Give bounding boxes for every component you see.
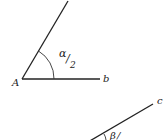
angle-beta-half: c β / <box>88 95 163 140</box>
angle-diagram: A b α / 2 c β / <box>0 0 167 140</box>
ray-c <box>88 104 153 140</box>
angle-arc <box>39 51 55 79</box>
angle-arc-beta <box>104 134 106 140</box>
ray-upper <box>22 1 68 79</box>
angle-label-beta-slash: / <box>116 130 122 140</box>
angle-alpha-half: A b α / 2 <box>11 1 109 88</box>
ray-label-c: c <box>157 95 163 106</box>
ray-label-b: b <box>103 73 109 84</box>
vertex-label-a: A <box>11 77 19 88</box>
angle-label-beta: β <box>109 130 116 140</box>
angle-label-denom: 2 <box>69 60 76 70</box>
